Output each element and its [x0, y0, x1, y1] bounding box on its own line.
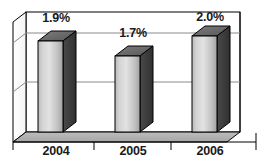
bar-2004[interactable] [38, 31, 76, 132]
category-label-2006: 2006 [182, 145, 238, 158]
plot-left-wall [13, 12, 26, 142]
bar-2005[interactable] [115, 46, 153, 132]
plot-floor [13, 132, 240, 142]
data-label-2006: 2.0% [180, 11, 240, 24]
category-label-2005: 2005 [105, 145, 161, 158]
data-label-2004: 1.9% [26, 12, 86, 25]
bar-2006[interactable] [192, 26, 230, 132]
data-label-2005: 1.7% [103, 27, 163, 40]
category-label-2004: 2004 [28, 145, 84, 158]
chart-container: 1.9% 1.7% 2.0% 2004 2005 2006 [0, 0, 276, 165]
